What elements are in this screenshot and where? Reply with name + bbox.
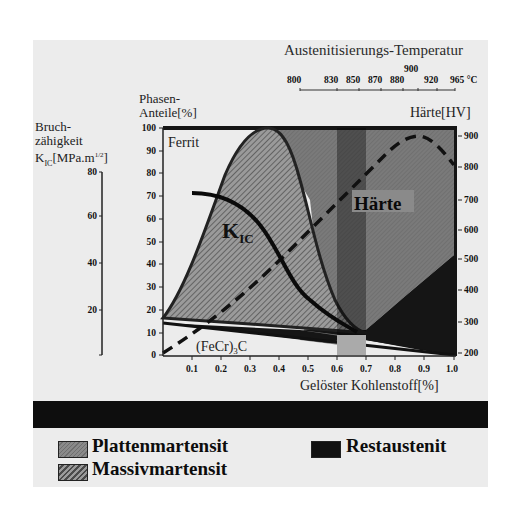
y-tick-70: 70 — [147, 191, 157, 201]
x-tick-0.5: 0.5 — [302, 364, 314, 374]
y-tick-40: 40 — [147, 259, 157, 269]
y-tick-100: 100 — [142, 123, 157, 133]
y-tick-10: 10 — [147, 328, 157, 338]
kic-tick-40: 40 — [88, 258, 98, 268]
hv-tick-700: 700 — [464, 195, 479, 205]
legend-swatch-plattenmartensit — [58, 441, 88, 458]
kic-tick-80: 80 — [88, 167, 98, 177]
y-tick-80: 80 — [147, 168, 157, 178]
hv-tick-500: 500 — [464, 254, 479, 264]
hv-tick-800: 800 — [464, 162, 479, 172]
y-tick-50: 50 — [147, 237, 157, 247]
y-tick-0: 0 — [151, 350, 156, 360]
x-tick-1.0: 1.0 — [446, 364, 458, 374]
x-tick-0.1: 0.1 — [186, 364, 198, 374]
x-tick-0.2: 0.2 — [215, 364, 227, 374]
x-tick-0.7: 0.7 — [360, 364, 372, 374]
x-tick-0.4: 0.4 — [273, 364, 285, 374]
legend-label-massivmartensit: Massivmartensit — [92, 458, 227, 480]
label-ferrit: Ferrit — [168, 135, 199, 150]
hv-tick-600: 600 — [464, 225, 479, 235]
kic-tick-20: 20 — [88, 305, 98, 315]
y-tick-30: 30 — [147, 282, 157, 292]
kic-tick-60: 60 — [88, 211, 98, 221]
y-tick-90: 90 — [147, 146, 157, 156]
hv-tick-400: 400 — [464, 285, 479, 295]
hv-tick-900: 900 — [464, 131, 479, 141]
hv-tick-200: 200 — [464, 348, 479, 358]
x-tick-0.3: 0.3 — [244, 364, 256, 374]
label-haerte: Härte — [354, 193, 401, 214]
x-tick-0.6: 0.6 — [331, 364, 343, 374]
x-tick-0.9: 0.9 — [418, 364, 430, 374]
hv-tick-300: 300 — [464, 317, 479, 327]
legend-swatch-restaustenit — [311, 441, 341, 458]
legend-swatch-massivmartensit — [58, 464, 88, 481]
label-carbide: (FeCr)3C — [196, 339, 247, 356]
legend-label-plattenmartensit: Plattenmartensit — [92, 435, 228, 457]
y-tick-20: 20 — [147, 305, 157, 315]
x-tick-0.8: 0.8 — [389, 364, 401, 374]
black-bar — [33, 401, 488, 428]
y-tick-60: 60 — [147, 214, 157, 224]
legend-label-restaustenit: Restaustenit — [346, 435, 446, 457]
